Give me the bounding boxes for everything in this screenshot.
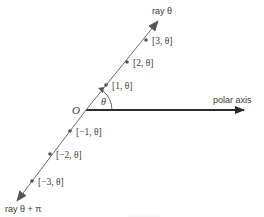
point-label-r3: [3, θ] xyxy=(152,36,172,46)
point-label-r2: [2, θ] xyxy=(133,58,153,68)
polar-coordinates-diagram: [1, θ][2, θ][3, θ][−1, θ][−2, θ][−3, θ] … xyxy=(0,0,264,217)
point-r2 xyxy=(125,60,129,64)
point-r3 xyxy=(144,38,148,42)
point-rneg1 xyxy=(68,129,72,133)
point-label-r1: [1, θ] xyxy=(112,81,132,91)
angle-label: θ xyxy=(101,96,106,107)
point-r1 xyxy=(104,83,108,87)
point-rneg3 xyxy=(30,179,34,183)
point-rneg2 xyxy=(48,152,52,156)
polar-axis-label: polar axis xyxy=(213,95,252,105)
point-label-rneg3: [−3, θ] xyxy=(38,177,64,187)
ray-theta-label: ray θ xyxy=(152,6,172,16)
point-label-rneg1: [−1, θ] xyxy=(76,127,102,137)
ray-theta-plus-pi-label: ray θ + π xyxy=(5,204,41,214)
point-label-rneg2: [−2, θ] xyxy=(56,150,82,160)
origin-label: O xyxy=(72,104,80,116)
